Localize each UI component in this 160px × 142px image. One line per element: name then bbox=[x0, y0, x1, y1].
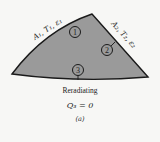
surface-3-number: 3 bbox=[76, 66, 80, 75]
q3-equation: Q₃ = 0 bbox=[67, 101, 94, 110]
surface-2-number: 2 bbox=[105, 46, 109, 55]
enclosure-diagram: 1 2 3 A₁, T₁, ε₁ A₂, T₂, ε₂ Reradiating … bbox=[0, 0, 160, 142]
figure-tag: (a) bbox=[76, 115, 85, 123]
surface-1-number: 1 bbox=[73, 28, 77, 37]
enclosure-region bbox=[12, 14, 148, 79]
reradiating-caption: Reradiating bbox=[63, 86, 98, 95]
